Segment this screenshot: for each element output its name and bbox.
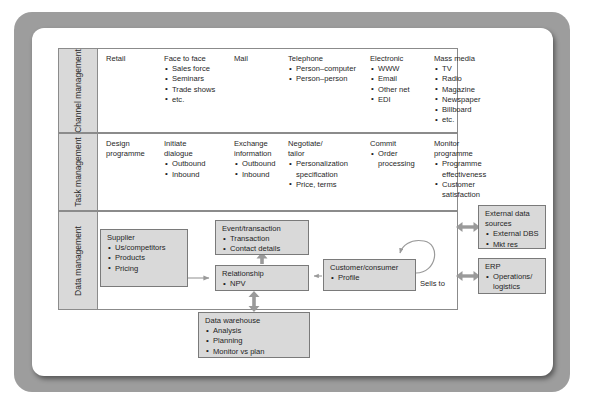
list-item: EDI [378,95,428,105]
cell-commit: Commit Order processing [370,139,428,170]
connector-label-sells-to: Sells to [420,279,445,288]
cell-heading: Monitor programme [434,139,496,159]
box-list: Operations/ logistics [485,272,540,292]
list-item: Planning [213,336,304,346]
row-label-text: Channel management [73,49,83,133]
cell-heading: Electronic [370,54,428,64]
box-list: Us/competitors Products Pricing [107,243,182,274]
list-item: Personalization specification [296,159,368,179]
cell-retail: Retail [106,54,158,64]
list-item: Seminars [172,74,226,84]
cell-design-programme: Design programme [106,139,160,159]
cell-list: Programme effectiveness Customer satisfa… [434,159,496,200]
list-item: Profile [338,273,410,283]
cell-heading: Initiate dialogue [164,139,226,159]
box-heading: Event/transaction [222,224,303,234]
box-list: NPV [222,279,303,289]
list-item: Magazine [442,85,494,95]
list-item: WWW [378,64,428,74]
list-item: Us/competitors [115,243,182,253]
list-item: Monitor vs plan [213,347,304,357]
cell-list: Outbound Inbound [164,159,226,179]
cell-list: Person–computer Person–person [288,64,364,84]
cell-mass-media: Mass media TV Radio Magazine Newspaper B… [434,54,494,125]
diagram-canvas: Channel management Retail Face to face S… [0,0,592,411]
list-item: etc. [442,115,494,125]
list-item: Person–computer [296,64,364,74]
box-event-transaction[interactable]: Event/transaction Transaction Contact de… [215,220,309,255]
box-heading: Customer/consumer [330,263,410,273]
cell-heading: Mass media [434,54,494,64]
row-cells-channel: Retail Face to face Sales force Seminars… [98,49,457,132]
list-item: Contact details [230,244,303,254]
list-item: Operations/ logistics [493,272,540,292]
row-task-management: Task management Design programme Initiat… [58,133,458,211]
cell-list: Personalization specification Price, ter… [288,159,368,190]
list-item: Inbound [172,170,226,180]
row-label-task-management: Task management [59,134,98,210]
list-item: etc. [172,95,226,105]
list-item: Email [378,74,428,84]
row-cells-task: Design programme Initiate dialogue Outbo… [98,134,457,210]
box-heading: Data warehouse [205,316,304,326]
list-item: Trade shows [172,85,226,95]
box-list: External DBS Mkt res [485,229,540,249]
box-list: Analysis Planning Monitor vs plan [205,326,304,357]
cell-monitor-programme: Monitor programme Programme effectivenes… [434,139,496,200]
list-item: Pricing [115,264,182,274]
box-heading: ERP [485,262,540,272]
list-item: Programme effectiveness [442,159,496,179]
row-label-text: Data management [73,226,83,296]
list-item: Other net [378,85,428,95]
cell-mail: Mail [234,54,274,64]
box-list: Transaction Contact details [222,234,303,254]
box-heading: External data sources [485,209,540,229]
list-item: Billboard [442,105,494,115]
box-relationship[interactable]: Relationship NPV [215,265,309,291]
cell-list: Order processing [370,149,428,169]
list-item: Order processing [378,149,428,169]
row-label-channel-management: Channel management [59,49,98,132]
list-item: Outbound [172,159,226,169]
list-item: Customer satisfaction [442,180,496,200]
cell-electronic: Electronic WWW Email Other net EDI [370,54,428,105]
cell-negotiate-tailor: Negotiate/ tailor Personalization specif… [288,139,368,190]
box-list: Profile [330,273,410,283]
cell-list: TV Radio Magazine Newspaper Billboard et… [434,64,494,125]
list-item: Sales force [172,64,226,74]
list-item: Mkt res [493,240,540,250]
list-item: Price, terms [296,180,368,190]
list-item: Analysis [213,326,304,336]
list-item: Person–person [296,74,364,84]
cell-list: Sales force Seminars Trade shows etc. [164,64,226,105]
list-item: Radio [442,74,494,84]
cell-telephone: Telephone Person–computer Person–person [288,54,364,85]
row-label-data-management: Data management [59,212,98,309]
cell-list: Outbound Inbound [234,159,296,179]
cell-heading: Commit [370,139,428,149]
box-erp[interactable]: ERP Operations/ logistics [478,258,546,294]
list-item: Newspaper [442,95,494,105]
box-supplier[interactable]: Supplier Us/competitors Products Pricing [100,229,188,287]
list-item: External DBS [493,229,540,239]
cell-heading: Telephone [288,54,364,64]
cell-heading: Exchange information [234,139,296,159]
box-external-data-sources[interactable]: External data sources External DBS Mkt r… [478,205,546,249]
box-heading: Relationship [222,269,303,279]
cell-initiate-dialogue: Initiate dialogue Outbound Inbound [164,139,226,180]
list-item: TV [442,64,494,74]
list-item: Transaction [230,234,303,244]
cell-heading: Mail [234,54,274,64]
box-heading: Supplier [107,233,182,243]
cell-exchange-information: Exchange information Outbound Inbound [234,139,296,180]
cell-heading: Face to face [164,54,226,64]
list-item: Products [115,253,182,263]
row-channel-management: Channel management Retail Face to face S… [58,48,458,133]
box-data-warehouse[interactable]: Data warehouse Analysis Planning Monitor… [198,312,310,358]
box-customer-consumer[interactable]: Customer/consumer Profile [323,259,416,291]
cell-face-to-face: Face to face Sales force Seminars Trade … [164,54,226,105]
cell-list: WWW Email Other net EDI [370,64,428,105]
row-label-text: Task management [73,137,83,206]
cell-heading: Design programme [106,139,160,159]
cell-heading: Retail [106,54,158,64]
